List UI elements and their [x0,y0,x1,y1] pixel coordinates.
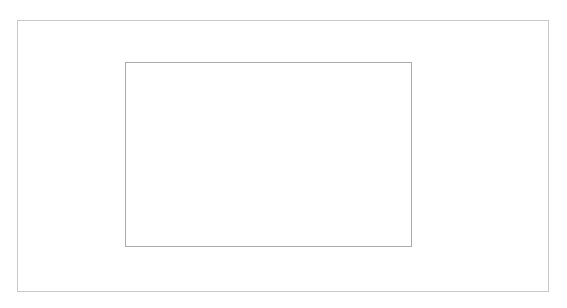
figure-canvas [0,0,567,308]
plot-frame [126,63,412,247]
scatter-plot-svg [0,0,567,308]
probability-plot [0,0,567,308]
